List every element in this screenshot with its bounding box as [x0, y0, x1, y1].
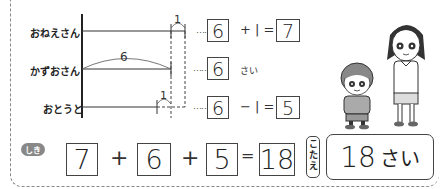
- onee-value-box: 6: [207, 19, 229, 42]
- row-label-otouto: おとうと: [43, 101, 83, 116]
- shiki-badge: しき: [21, 143, 45, 156]
- diff-label-bottom: 1: [160, 89, 167, 102]
- diff-label-top: 1: [174, 13, 181, 26]
- children-illustration: [335, 15, 435, 130]
- answer-value: 18: [340, 141, 376, 174]
- arc-label-kazuo: 6: [120, 50, 128, 64]
- kotae-char: た: [307, 150, 319, 161]
- otouto-result-box: 5: [276, 96, 300, 119]
- plus-op-2: +: [181, 145, 199, 170]
- kazuo-value-box: 6: [207, 57, 229, 80]
- onee-op: + | =: [240, 22, 274, 37]
- row-label-kazuo: かずおさん: [30, 63, 80, 78]
- kazuo-unit: さい: [240, 64, 258, 77]
- otouto-value-box: 6: [207, 96, 229, 119]
- term-box-1: 7: [66, 143, 98, 176]
- result-box: 18: [259, 143, 295, 176]
- row-label-onee: おねえさん: [30, 25, 80, 40]
- equals-op: =: [241, 146, 254, 165]
- kotae-char: え: [307, 161, 319, 172]
- answer-unit: さい: [380, 143, 420, 172]
- kotae-char: こ: [307, 139, 319, 150]
- term-box-3: 5: [206, 143, 238, 176]
- answer-box: 18 さい: [326, 134, 434, 180]
- girl-figure: [387, 25, 425, 127]
- term-box-2: 6: [137, 143, 171, 176]
- kotae-badge: こ た え: [306, 136, 320, 178]
- boy-figure: [341, 63, 373, 129]
- onee-result-box: 7: [276, 19, 300, 42]
- plus-op-1: +: [110, 145, 128, 170]
- otouto-op: − | =: [240, 99, 274, 114]
